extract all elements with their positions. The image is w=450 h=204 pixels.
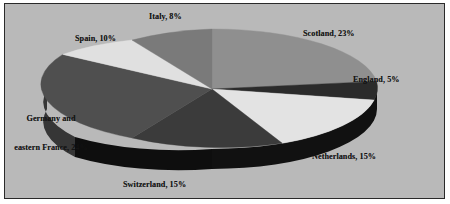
slice-label-germany-line2: eastern France, 24% [7,143,95,153]
slice-label-netherlands: Netherlands, 15% [312,152,376,162]
slice-label-scotland: Scotland, 23% [303,29,355,39]
slice-label-germany-line1: Germany and [7,114,95,124]
slice-label-switzerland: Switzerland, 15% [123,180,186,190]
slice-label-spain: Spain, 10% [75,34,116,44]
chart-frame: Scotland, 23% England, 5% Netherlands, 1… [4,3,445,199]
slice-label-italy: Italy, 8% [149,12,182,22]
slice-label-england: England, 5% [353,75,400,85]
pie-chart-screenshot: Scotland, 23% England, 5% Netherlands, 1… [0,0,450,204]
plot-area: Scotland, 23% England, 5% Netherlands, 1… [5,4,444,198]
slice-label-germany: Germany and eastern France, 24% [7,95,95,172]
